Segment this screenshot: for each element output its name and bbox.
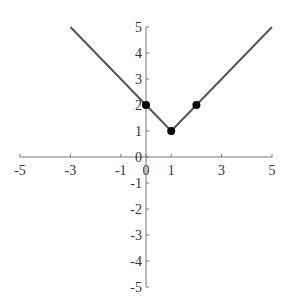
y-tick-label: -2 [130,202,142,217]
data-point [192,101,200,109]
y-tick-label: 4 [135,46,142,61]
y-tick-label: 5 [135,20,142,35]
data-point [142,101,150,109]
x-tick-label: -5 [14,163,26,178]
x-tick-label: 3 [218,163,225,178]
x-tick-label: 5 [269,163,276,178]
x-tick-label: 0 [143,163,150,178]
data-point [167,127,175,135]
y-tick-label: -5 [130,280,142,295]
function-line [70,27,272,131]
y-tick-label: -4 [130,254,142,269]
y-tick-label: 0 [135,150,142,165]
x-tick-label: -1 [115,163,127,178]
y-tick-label: -1 [130,176,142,191]
y-tick-label: 3 [135,72,142,87]
x-tick-label: -3 [65,163,77,178]
function-graph: -5-3-10135-5-4-3-2-1012345 [0,0,288,303]
y-tick-label: -3 [130,228,142,243]
x-tick-label: 1 [168,163,175,178]
y-tick-label: 1 [135,124,142,139]
